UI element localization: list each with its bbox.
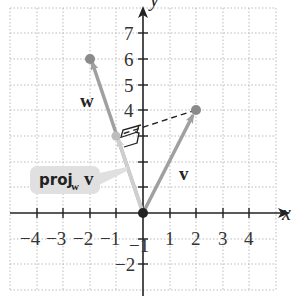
y-axis-label: y [148,0,159,11]
y-tick-label: 5 [124,75,134,96]
proj-label-callout: proj w v [30,166,127,194]
proj-label-vector: v [84,168,94,189]
origin-point [138,208,148,218]
point-v-head [191,105,201,115]
point-proj-head [112,132,121,141]
x-tick-label: 1 [165,228,175,249]
x-tick-label: −1 [100,228,120,249]
y-tick-label: 6 [124,49,134,70]
x-tick-label: 3 [218,228,228,249]
y-tick-label: −1 [129,235,149,256]
x-tick-label: −3 [46,228,66,249]
proj-label-subscript: w [71,180,79,192]
vector-v-label: v [179,163,189,184]
y-tick-label: 4 [124,100,134,121]
x-axis-label: x [281,202,291,224]
proj-label-main: proj [39,171,73,189]
x-tick-label: −4 [20,228,41,249]
y-tick-label: 7 [124,23,134,44]
projection-diagram: −4 −3 −2 −1 1 2 3 4 7 6 5 4 −1 −2 x y w … [0,0,299,301]
x-tick-label: 2 [191,228,201,249]
y-tick-label: −2 [115,254,135,275]
x-tick-label: 4 [244,228,254,249]
vector-proj [118,139,143,213]
vector-w-label: w [80,90,94,111]
point-w-head [85,54,95,64]
x-tick-label: −2 [73,228,93,249]
